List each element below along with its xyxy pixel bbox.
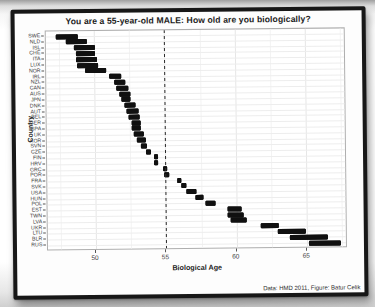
range-bar <box>74 45 95 50</box>
country-code: AUS <box>30 91 41 96</box>
country-code: POL <box>31 201 42 206</box>
country-code: NLD <box>30 39 41 44</box>
country-code: EST <box>32 207 42 212</box>
y-tick-mark <box>42 151 45 152</box>
y-tick-mark <box>41 64 44 65</box>
y-tick-mark <box>43 215 46 216</box>
country-code: LVA <box>33 219 42 224</box>
country-code: POR <box>30 172 42 177</box>
country-tick-label: CZE <box>19 149 45 155</box>
y-tick-mark <box>43 227 46 228</box>
y-tick-mark <box>43 169 46 170</box>
range-bar <box>110 74 121 79</box>
country-tick-label: LVA <box>20 219 46 225</box>
country-tick-label: SVN <box>19 143 45 149</box>
y-tick-mark <box>42 111 45 112</box>
country-tick-label: HRV <box>20 161 46 167</box>
country-tick-label: SWE <box>18 33 44 39</box>
country-code: SVK <box>31 184 42 189</box>
range-bar <box>277 229 305 234</box>
y-tick-mark <box>41 47 44 48</box>
row-gridline <box>46 97 344 101</box>
country-code: CZE <box>31 149 42 154</box>
country-code: HRV <box>30 161 41 166</box>
figure-caption: Data: HMD 2011, Figure: Batur Celik <box>263 284 360 291</box>
row-gridline <box>47 144 345 148</box>
country-code: ITA <box>33 56 41 61</box>
country-tick-label: TWN <box>20 213 46 219</box>
country-code: CHE <box>29 50 40 55</box>
country-tick-label: UK <box>19 132 45 138</box>
row-gridline <box>47 115 345 119</box>
country-code: FIN <box>33 155 42 160</box>
row-gridline <box>46 39 344 43</box>
y-tick-mark <box>42 145 45 146</box>
country-tick-label: LUX <box>19 62 45 68</box>
country-tick-label: FRA <box>20 178 46 184</box>
row-gridline <box>46 33 344 37</box>
country-code: SPA <box>31 126 41 131</box>
country-tick-label: POR <box>20 172 46 178</box>
country-code: USA <box>31 190 42 195</box>
range-bar <box>77 62 98 67</box>
country-tick-label: SPA <box>19 126 45 132</box>
country-code: LTU <box>33 230 43 235</box>
y-tick-mark <box>41 52 44 53</box>
range-bar <box>121 97 131 102</box>
country-code: TWN <box>30 213 42 218</box>
range-bar <box>85 68 106 73</box>
country-tick-label: BEL <box>19 114 45 120</box>
row-gridline <box>48 242 346 246</box>
y-tick-mark <box>43 186 46 187</box>
range-bar <box>127 109 138 114</box>
y-tick-mark <box>41 35 44 36</box>
range-bar <box>195 195 204 200</box>
range-bar <box>309 240 341 245</box>
range-bar <box>131 120 141 125</box>
country-tick-label: BLR <box>20 236 46 242</box>
row-gridline <box>47 132 345 136</box>
country-code: SVN <box>31 143 42 148</box>
row-gridline <box>47 120 345 124</box>
range-bar <box>290 234 328 239</box>
row-gridline <box>47 155 345 159</box>
country-tick-label: NOR <box>19 68 45 74</box>
range-bar <box>65 39 86 44</box>
row-gridline <box>46 91 344 95</box>
range-bar <box>128 114 139 119</box>
range-bar <box>205 201 215 206</box>
figure-frame: You are a 55-year-old MALE: How old are … <box>10 6 368 300</box>
range-bar <box>114 80 125 85</box>
range-bar <box>260 223 278 228</box>
country-code: JPN <box>31 97 41 102</box>
x-tick-label: 60 <box>226 252 246 259</box>
country-code: RUS <box>31 242 42 247</box>
country-tick-label: GER <box>19 120 45 126</box>
row-gridline <box>46 74 344 78</box>
row-gridline <box>47 178 345 182</box>
range-bar <box>117 85 128 90</box>
row-gridline <box>47 138 345 142</box>
x-axis-title: Biological Age <box>47 261 347 273</box>
country-tick-label: DNK <box>19 103 45 109</box>
row-gridline <box>47 184 345 188</box>
country-code: GER <box>30 120 42 125</box>
country-code: DNK <box>30 103 41 108</box>
y-tick-mark <box>42 157 45 158</box>
range-bar <box>187 189 197 194</box>
country-code: NOR <box>29 68 41 73</box>
y-tick-mark <box>43 180 46 181</box>
country-code: BEL <box>31 114 41 119</box>
row-gridline <box>47 109 345 113</box>
row-gridline <box>47 167 345 171</box>
x-tick-label: 65 <box>296 252 316 259</box>
country-code: NZL <box>31 79 41 84</box>
y-tick-mark <box>41 41 44 42</box>
y-tick-mark <box>42 81 45 82</box>
range-bar <box>134 132 144 137</box>
y-tick-mark <box>42 116 45 117</box>
country-tick-label: RUS <box>20 242 46 248</box>
country-tick-label: CAN <box>19 85 45 91</box>
country-tick-label: SVK <box>20 184 46 190</box>
country-code: UK <box>34 132 41 137</box>
